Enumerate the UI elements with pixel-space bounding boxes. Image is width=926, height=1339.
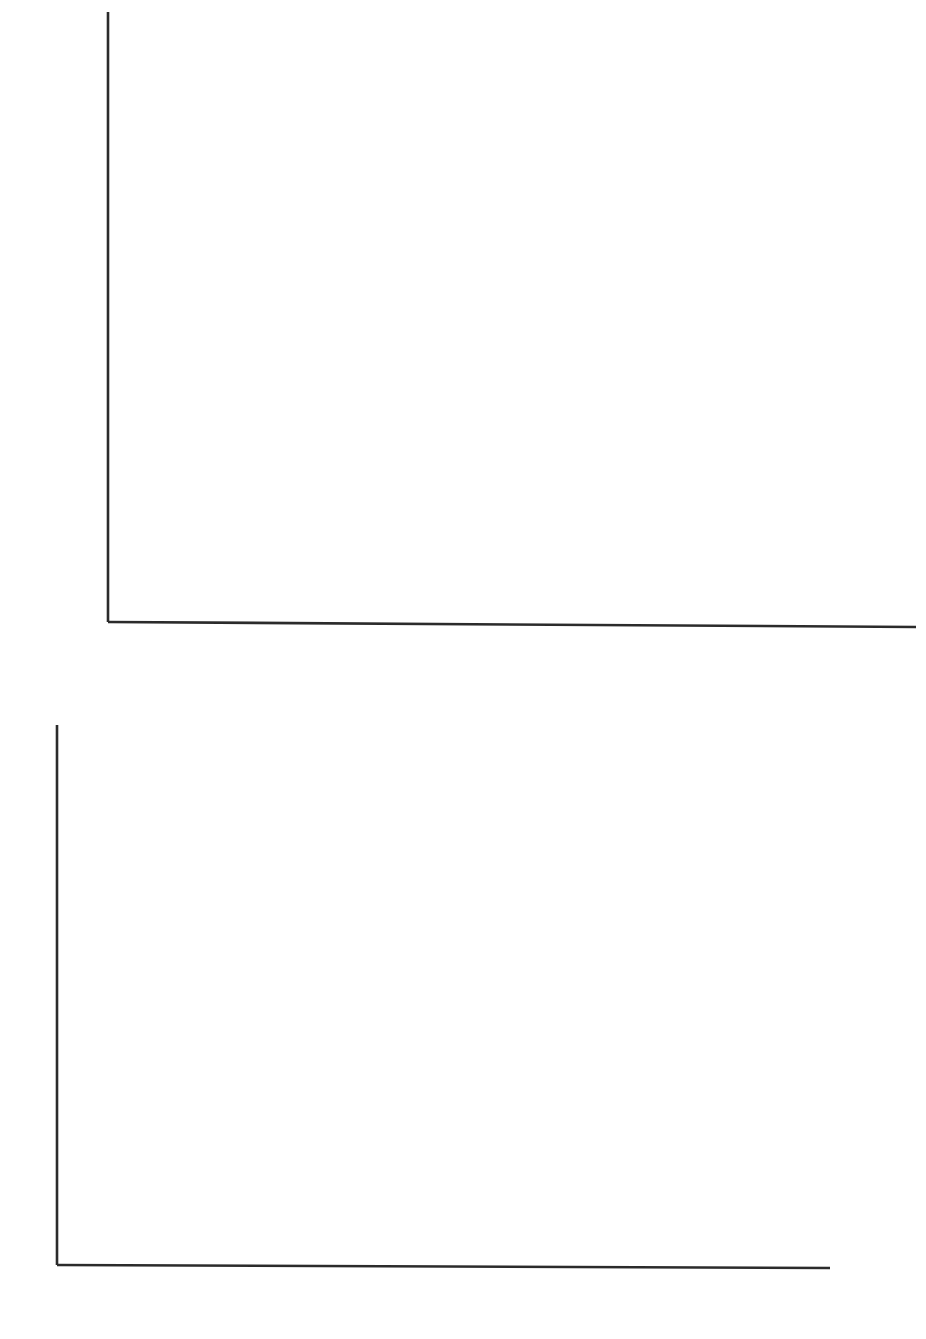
restitution-curve-panel xyxy=(0,700,926,1339)
figure-container xyxy=(0,0,926,1339)
x-axis-line-bottom xyxy=(57,1265,830,1268)
action-potential-traces-panel xyxy=(0,0,926,710)
action-potential-chart xyxy=(0,0,926,710)
restitution-chart xyxy=(0,700,926,1339)
x-axis-line-top xyxy=(108,622,916,627)
